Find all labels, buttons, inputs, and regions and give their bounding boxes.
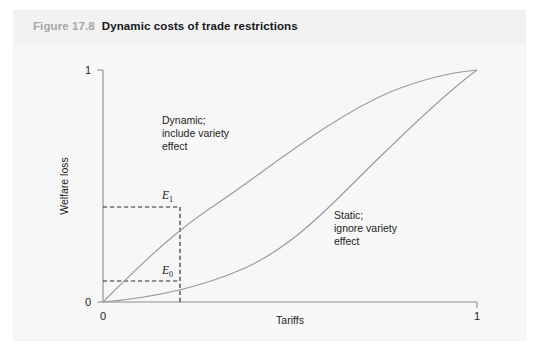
- y-tick-label-min: 0: [85, 296, 91, 308]
- x-tick-label-min: 0: [100, 310, 106, 322]
- dynamic-annotation: Dynamic; include variety effect: [162, 114, 232, 152]
- e1-marker-label: E1: [161, 189, 173, 204]
- y-tick-label-max: 1: [85, 64, 91, 76]
- static-annotation: Static; ignore variety effect: [334, 209, 400, 247]
- chart-plot: 1 0 0 1 Welfare loss Tariffs E1 E0 Dynam…: [0, 0, 550, 357]
- e0-marker-label: E0: [161, 264, 173, 279]
- y-axis-title: Welfare loss: [58, 157, 70, 215]
- x-tick-label-max: 1: [474, 310, 480, 322]
- x-axis-title: Tariffs: [276, 314, 304, 326]
- dynamic-curve: [103, 70, 477, 302]
- static-curve: [103, 70, 477, 302]
